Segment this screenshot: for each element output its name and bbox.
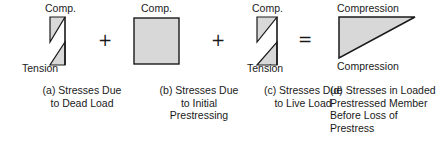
caption-b-line-3: Prestressing [135, 109, 263, 122]
caption-b-line-2: to Initial [135, 97, 263, 110]
caption-d-line-2: Prestressed Member [330, 97, 436, 110]
panel-d-diagram [337, 15, 429, 63]
operator-plus-1: + [98, 32, 112, 49]
panel-c-top-label: Comp. [252, 2, 283, 14]
caption-a-line-1: (a) Stresses Due [22, 84, 142, 97]
caption-a-line-2: to Dead Load [22, 97, 142, 110]
panel-d-bottom-label: Compression [337, 60, 399, 72]
stress-diagram-figure: Comp. Tension + Comp. + Comp. Tension = … [0, 0, 436, 142]
caption-d: (d) Stresses in Loaded Prestressed Membe… [330, 84, 436, 134]
operator-plus-2: + [211, 32, 225, 49]
panel-d-top-label: Compression [337, 2, 399, 14]
caption-d-line-1: (d) Stresses in Loaded [330, 84, 436, 97]
panel-c-diagram [248, 15, 290, 67]
caption-d-line-3: Before Loss of [330, 109, 436, 122]
caption-a: (a) Stresses Due to Dead Load [22, 84, 142, 109]
panel-c-bottom-label: Tension [247, 62, 283, 74]
panel-a-top-label: Comp. [45, 2, 76, 14]
caption-b-line-1: (b) Stresses Due [135, 84, 263, 97]
panel-a-bottom-label: Tension [22, 62, 58, 74]
caption-b: (b) Stresses Due to Initial Prestressing [135, 84, 263, 122]
panel-b-diagram [133, 17, 185, 67]
caption-d-line-4: Prestress [330, 122, 436, 135]
panel-b-top-label: Comp. [141, 2, 172, 14]
panel-a-diagram [40, 15, 80, 67]
operator-equals: = [298, 31, 312, 48]
